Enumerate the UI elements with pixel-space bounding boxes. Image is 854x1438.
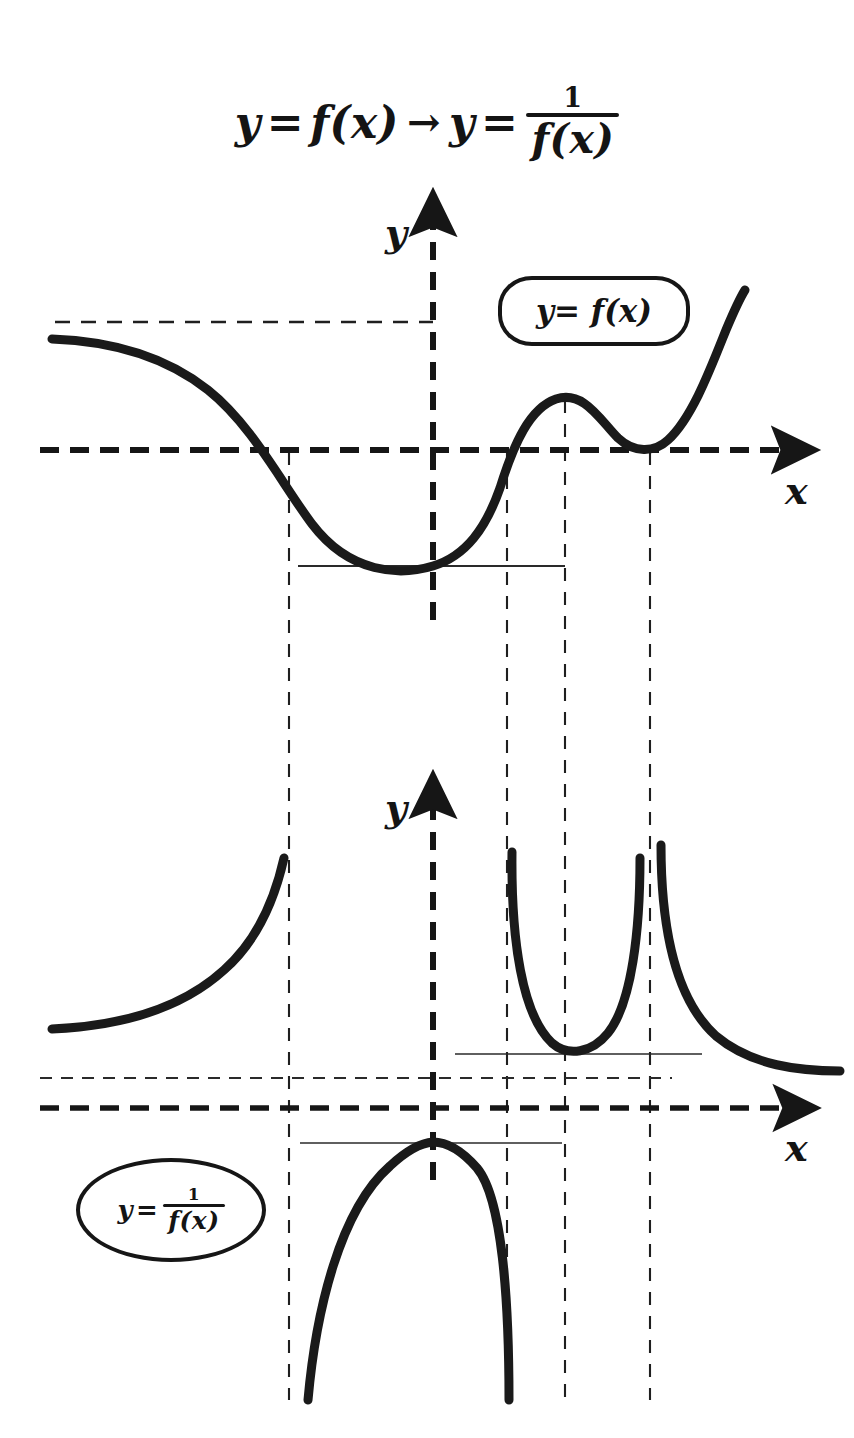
callout-lower-expression: y= 1 f(x)	[117, 1186, 224, 1235]
callout-y-equals-one-over-f-of-x: y= 1 f(x)	[76, 1158, 266, 1262]
callout-lower-eq: =	[136, 1195, 158, 1225]
callout-lower-fraction: 1 f(x)	[163, 1186, 224, 1235]
callout-upper-text: y= f(x)	[536, 293, 652, 329]
callout-lower-denominator: f(x)	[163, 1207, 224, 1234]
callout-y-equals-f-of-x: y= f(x)	[498, 276, 690, 346]
callout-lower-lhs: y	[117, 1195, 133, 1225]
callout-lower-numerator: 1	[180, 1186, 208, 1205]
